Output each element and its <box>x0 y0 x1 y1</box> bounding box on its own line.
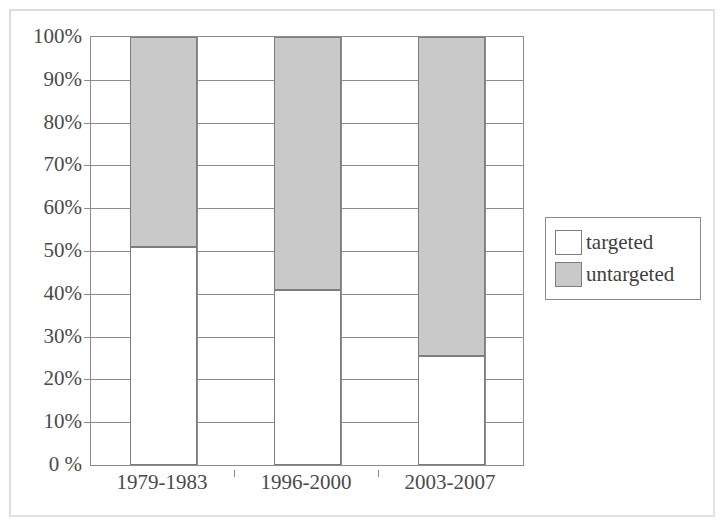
y-axis-tick-label: 0 % <box>0 452 82 477</box>
x-axis-tick-label: 1996-2000 <box>261 470 352 495</box>
y-axis-tick-label: 10% <box>0 409 82 434</box>
y-axis-tick-mark <box>84 379 91 380</box>
y-axis-tick-label: 90% <box>0 66 82 91</box>
y-axis-tick-label: 80% <box>0 109 82 134</box>
bar-group <box>274 37 341 465</box>
x-axis-tick-mark <box>234 470 235 477</box>
legend-item: untargeted <box>555 258 690 290</box>
legend-label-targeted: targeted <box>586 232 653 253</box>
x-axis-tick-label: 1979-1983 <box>117 470 208 495</box>
gridline-vertical <box>485 37 486 465</box>
y-axis-tick-mark <box>84 422 91 423</box>
chart-figure: 0 %10%20%30%40%50%60%70%80%90%100% 1979-… <box>0 0 724 530</box>
y-axis-tick-mark <box>84 80 91 81</box>
gridline-vertical <box>341 37 342 465</box>
bar-segment-untargeted <box>274 37 341 290</box>
y-axis-tick-mark <box>84 294 91 295</box>
y-axis-tick-mark <box>84 165 91 166</box>
bar-group <box>130 37 197 465</box>
bar-segment-targeted <box>130 247 197 465</box>
gridline-vertical <box>197 37 198 465</box>
bar-segment-untargeted <box>418 37 485 356</box>
x-axis-tick-label: 2003-2007 <box>405 470 496 495</box>
legend-swatch-targeted <box>555 230 582 255</box>
x-axis-tick-mark <box>378 470 379 477</box>
y-axis-tick-label: 40% <box>0 280 82 305</box>
bar-segment-untargeted <box>130 37 197 247</box>
bar-group <box>418 37 485 465</box>
x-axis: 1979-19831996-20002003-2007 <box>90 470 524 510</box>
y-axis-tick-label: 70% <box>0 152 82 177</box>
y-axis-tick-mark <box>84 337 91 338</box>
y-axis-tick-label: 100% <box>0 24 82 49</box>
y-axis-tick-mark <box>84 251 91 252</box>
chart-legend: targeteduntargeted <box>545 217 701 300</box>
bar-segment-targeted <box>418 356 485 465</box>
legend-item: targeted <box>555 226 690 258</box>
y-axis-tick-label: 30% <box>0 323 82 348</box>
bar-segment-targeted <box>274 290 341 465</box>
legend-label-untargeted: untargeted <box>586 264 674 285</box>
y-axis-tick-label: 20% <box>0 366 82 391</box>
y-axis-tick-label: 50% <box>0 238 82 263</box>
y-axis-tick-label: 60% <box>0 195 82 220</box>
y-axis-tick-mark <box>84 208 91 209</box>
y-axis: 0 %10%20%30%40%50%60%70%80%90%100% <box>0 36 86 466</box>
legend-swatch-untargeted <box>555 262 582 287</box>
y-axis-tick-mark <box>84 123 91 124</box>
plot-area <box>90 36 524 466</box>
